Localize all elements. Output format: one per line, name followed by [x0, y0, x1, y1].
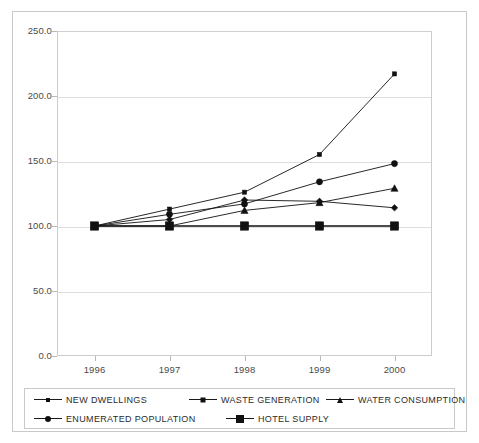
- x-axis-tick-label: 2000: [384, 364, 406, 375]
- legend-item-label: WATER CONSUMPTION: [358, 395, 465, 405]
- x-axis-tick-mark: [170, 356, 171, 361]
- legend-marker-glyph: [46, 398, 50, 402]
- legend-marker-large-square-icon: [225, 413, 255, 425]
- y-axis-tick-mark: [52, 291, 57, 292]
- legend-marker-diamond-icon: [188, 394, 218, 406]
- x-axis-tick-label: 1998: [234, 364, 256, 375]
- legend-item-waste-generation[interactable]: WASTE GENERATION: [188, 390, 320, 409]
- gridline: [58, 162, 431, 163]
- y-axis-tick-label: 50.0: [33, 286, 52, 296]
- legend-marker-glyph: [337, 397, 343, 403]
- y-axis-tick-mark: [52, 96, 57, 97]
- legend-marker-glyph: [236, 415, 244, 423]
- legend-item-label: ENUMERATED POPULATION: [66, 414, 196, 424]
- y-axis-tick-mark: [52, 161, 57, 162]
- chart-legend: NEW DWELLINGSWASTE GENERATIONWATER CONSU…: [24, 388, 455, 429]
- legend-item-new-dwellings[interactable]: NEW DWELLINGS: [33, 390, 147, 409]
- legend-marker-glyph: [201, 397, 206, 402]
- x-axis-tick-label: 1999: [309, 364, 331, 375]
- y-axis-tick-label: 250.0: [28, 26, 52, 36]
- legend-row: ENUMERATED POPULATIONHOTEL SUPPLY: [25, 409, 454, 428]
- gridline: [58, 227, 431, 228]
- legend-item-label: WASTE GENERATION: [221, 395, 320, 405]
- chart-page: 0.050.0100.0150.0200.0250.0 199619971998…: [0, 0, 479, 443]
- gridline: [58, 97, 431, 98]
- y-axis-tick-label: 0.0: [38, 351, 52, 361]
- x-axis-tick-label: 1996: [84, 364, 106, 375]
- legend-marker-small-square-icon: [33, 394, 63, 406]
- legend-marker-triangle-icon: [325, 394, 355, 406]
- x-axis-tick-label: 1997: [159, 364, 181, 375]
- x-axis-tick-mark: [395, 356, 396, 361]
- legend-marker-glyph: [45, 416, 51, 422]
- y-axis-tick-label: 200.0: [28, 91, 52, 101]
- y-axis-tick-label: 100.0: [28, 221, 52, 231]
- legend-item-label: HOTEL SUPPLY: [258, 414, 329, 424]
- legend-row: NEW DWELLINGSWASTE GENERATIONWATER CONSU…: [25, 390, 454, 409]
- legend-item-water-consumption[interactable]: WATER CONSUMPTION: [325, 390, 465, 409]
- y-axis-tick-mark: [52, 356, 57, 357]
- plot-area: [57, 31, 432, 356]
- legend-item-hotel-supply[interactable]: HOTEL SUPPLY: [225, 409, 329, 428]
- y-axis-tick-label: 150.0: [28, 156, 52, 166]
- y-axis: 0.050.0100.0150.0200.0250.0: [0, 0, 52, 443]
- legend-item-label: NEW DWELLINGS: [66, 395, 147, 405]
- y-axis-tick-mark: [52, 31, 57, 32]
- legend-item-enumerated-population[interactable]: ENUMERATED POPULATION: [33, 409, 196, 428]
- x-axis-tick-mark: [95, 356, 96, 361]
- legend-marker-circle-icon: [33, 413, 63, 425]
- y-axis-tick-mark: [52, 226, 57, 227]
- x-axis-tick-mark: [320, 356, 321, 361]
- gridline: [58, 292, 431, 293]
- x-axis-tick-mark: [245, 356, 246, 361]
